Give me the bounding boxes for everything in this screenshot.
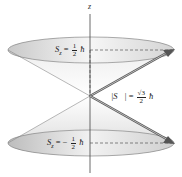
bottom-sz-label: Sz = − 12 ħ	[47, 136, 83, 151]
spin-cone-diagram: z Sz = 12 ħ Sz = − 12 ħ |S⃗| = √32 ħ	[0, 0, 182, 177]
top-sz-label: Sz = 12 ħ	[55, 43, 85, 58]
fraction: 12	[72, 43, 78, 58]
fraction: √32	[137, 90, 146, 105]
spin-magnitude-label: |S⃗| = √32 ħ	[111, 90, 153, 105]
fraction: 12	[71, 136, 77, 151]
cone-drawing	[0, 0, 182, 177]
z-axis-label: z	[88, 2, 91, 11]
